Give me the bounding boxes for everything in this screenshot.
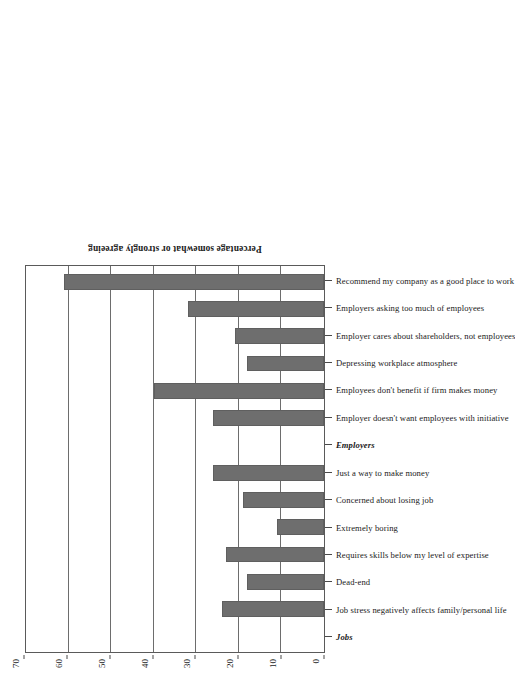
category-tick — [325, 295, 333, 322]
category-tick — [325, 624, 333, 651]
bar — [188, 301, 324, 317]
category-tick — [325, 569, 333, 596]
bar-slot — [26, 404, 324, 431]
bar-slot — [26, 323, 324, 350]
category-label: Employer cares about shareholders, not e… — [336, 331, 515, 340]
bar-slot — [26, 295, 324, 322]
bar — [154, 383, 324, 399]
category-ticks — [325, 265, 333, 653]
bar-slot — [26, 432, 324, 459]
category-tick — [325, 514, 333, 541]
category-label: Depressing workplace atmosphere — [336, 359, 457, 368]
category-label: Job stress negatively affects family/per… — [336, 606, 507, 615]
value-tick-mark-70 — [24, 655, 25, 659]
bar-slot — [26, 486, 324, 513]
category-label-slot: Dead-end — [334, 569, 354, 596]
category-label-slot: Employer cares about shareholders, not e… — [334, 322, 354, 349]
category-tick — [325, 377, 333, 404]
value-tick-label-40: 40 — [140, 659, 149, 668]
value-axis: 010203040506070 — [25, 655, 325, 683]
category-label: Dead-end — [336, 578, 370, 587]
bar — [277, 519, 324, 535]
category-tick — [325, 459, 333, 486]
category-label: Employees don't benefit if firm makes mo… — [336, 386, 497, 395]
category-label-slot: Just a way to make money — [334, 459, 354, 486]
bar — [222, 601, 324, 617]
category-tick — [325, 432, 333, 459]
bar-series — [26, 266, 324, 652]
category-label: Concerned about losing job — [336, 496, 433, 505]
value-axis-title: Percentage somewhat or strongly agreeing — [25, 239, 325, 259]
bar — [235, 328, 324, 344]
category-label-slot: Extremely boring — [334, 514, 354, 541]
category-label: Jobs — [336, 633, 353, 642]
bar — [213, 465, 324, 481]
category-label: Employers — [336, 441, 375, 450]
category-label-slot: Requires skills below my level of expert… — [334, 541, 354, 568]
plot-area — [25, 265, 325, 653]
bar — [247, 356, 324, 372]
value-tick-mark-40 — [152, 655, 153, 659]
value-tick-label-0: 0 — [312, 659, 321, 664]
value-tick-mark-10 — [281, 655, 282, 659]
value-tick-mark-60 — [66, 655, 67, 659]
bar-slot — [26, 377, 324, 404]
bar — [226, 547, 324, 563]
bar-slot — [26, 514, 324, 541]
category-label-slot: Employees don't benefit if firm makes mo… — [334, 377, 354, 404]
value-tick-mark-30 — [195, 655, 196, 659]
category-label: Just a way to make money — [336, 468, 429, 477]
bar — [243, 492, 324, 508]
category-label-slot: Depressing workplace atmosphere — [334, 349, 354, 376]
category-label: Requires skills below my level of expert… — [336, 551, 489, 560]
bar — [213, 410, 324, 426]
category-tick — [325, 596, 333, 623]
category-label-slot: Job stress negatively affects family/per… — [334, 596, 354, 623]
bar-slot — [26, 623, 324, 650]
category-tick — [325, 541, 333, 568]
category-tick — [325, 349, 333, 376]
value-tick-mark-20 — [238, 655, 239, 659]
bar-slot — [26, 268, 324, 295]
bar-slot — [26, 541, 324, 568]
category-label-slot: Jobs — [334, 624, 354, 651]
category-label: Recommend my company as a good place to … — [336, 277, 514, 286]
value-tick-label-20: 20 — [226, 659, 235, 668]
bar-slot — [26, 350, 324, 377]
value-tick-label-10: 10 — [269, 659, 278, 668]
category-label-slot: Employers — [334, 432, 354, 459]
bar-slot — [26, 568, 324, 595]
category-label: Employers asking too much of employees — [336, 304, 484, 313]
category-labels: JobsJob stress negatively affects family… — [334, 265, 354, 653]
value-tick-label-70: 70 — [12, 659, 21, 668]
bar-slot — [26, 595, 324, 622]
category-label-slot: Concerned about losing job — [334, 486, 354, 513]
value-tick-mark-0 — [324, 655, 325, 659]
category-label-slot: Recommend my company as a good place to … — [334, 267, 354, 294]
bar — [247, 574, 324, 590]
value-axis-title-text: Percentage somewhat or strongly agreeing — [88, 244, 262, 254]
category-tick — [325, 267, 333, 294]
category-label: Employer doesn't want employees with ini… — [336, 414, 509, 423]
value-tick-label-50: 50 — [97, 659, 106, 668]
category-tick — [325, 404, 333, 431]
category-tick — [325, 486, 333, 513]
value-tick-mark-50 — [109, 655, 110, 659]
bar-slot — [26, 459, 324, 486]
category-label: Extremely boring — [336, 523, 398, 532]
category-tick — [325, 322, 333, 349]
value-tick-label-30: 30 — [183, 659, 192, 668]
bar — [64, 274, 324, 290]
category-label-slot: Employer doesn't want employees with ini… — [334, 404, 354, 431]
category-label-slot: Employers asking too much of employees — [334, 295, 354, 322]
value-tick-label-60: 60 — [54, 659, 63, 668]
